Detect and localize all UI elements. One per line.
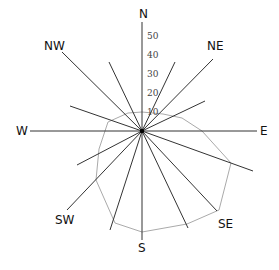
- center-point: [140, 129, 144, 133]
- axis-tick-10: 10: [147, 108, 158, 117]
- direction-label-e: E: [260, 125, 268, 137]
- wind-rose-svg: [0, 0, 279, 270]
- direction-label-sw: SW: [55, 214, 74, 226]
- direction-label-se: SE: [218, 218, 233, 230]
- axis-tick-20: 20: [147, 89, 158, 98]
- axis-tick-40: 40: [147, 51, 158, 60]
- wind-rose-diagram: NNEESESSWWNW 5040302010: [0, 0, 279, 270]
- frequency-polygon: [96, 112, 231, 232]
- ray-ssw: [110, 131, 142, 230]
- direction-label-nw: NW: [44, 40, 65, 52]
- axis-tick-50: 50: [147, 32, 158, 41]
- direction-label-s: S: [138, 242, 146, 254]
- ray-nnw: [109, 62, 142, 131]
- direction-label-w: W: [16, 125, 28, 137]
- ray-nw: [62, 52, 142, 131]
- direction-label-ne: NE: [207, 40, 224, 52]
- axis-tick-30: 30: [147, 70, 158, 79]
- direction-label-n: N: [139, 8, 148, 20]
- ray-se: [142, 131, 217, 211]
